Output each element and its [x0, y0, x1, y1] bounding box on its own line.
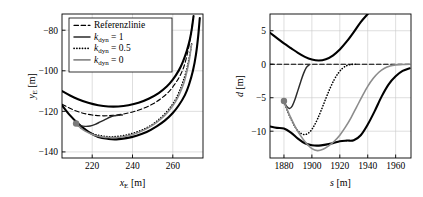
x-tick-label: 220	[85, 161, 100, 171]
x-axis-title: s [m]	[330, 177, 351, 188]
y-tick-label: 5	[261, 26, 266, 36]
y-tick-label: 0	[261, 60, 266, 70]
left-plot-svg: 220240260−80−100−120−140xE [m]yE [m]Refe…	[0, 0, 211, 197]
x-tick-label: 1940	[358, 161, 377, 171]
y-axis-title: yE [m]	[26, 73, 39, 100]
y-tick-label: −140	[38, 147, 58, 157]
y-tick-label: −5	[256, 93, 266, 103]
x-tick-label: 240	[125, 161, 140, 171]
y-tick-label: −10	[251, 127, 266, 137]
series-trajectory-kdyn-1	[284, 65, 309, 109]
x-tick-label: 1880	[274, 161, 293, 171]
legend-label: Referenzlinie	[94, 20, 145, 30]
x-axis-title: xE [m]	[119, 177, 146, 190]
x-tick-label: 260	[166, 161, 181, 171]
marker-start-position	[281, 98, 287, 104]
figure-two-panel-plot: 220240260−80−100−120−140xE [m]yE [m]Refe…	[0, 0, 423, 197]
y-axis-title: d [m]	[234, 75, 245, 97]
panel-right-sd-trajectory: 1880190019201940196050−5−10s [m]d [m]	[211, 0, 423, 197]
x-tick-label: 1900	[302, 161, 321, 171]
x-tick-label: 1920	[330, 161, 349, 171]
series-road-boundary-upper	[270, 9, 372, 60]
right-plot-svg: 1880190019201940196050−5−10s [m]d [m]	[211, 0, 423, 197]
marker-start-position	[73, 120, 79, 126]
legend: Referenzliniekdyn = 1kdyn = 0.5kdyn = 0	[69, 18, 172, 72]
y-tick-label: −80	[43, 26, 58, 36]
panel-left-xy-trajectory: 220240260−80−100−120−140xE [m]yE [m]Refe…	[0, 0, 211, 197]
series-trajectory-kdyn-1	[76, 115, 122, 126]
plot-frame	[270, 14, 411, 158]
x-tick-label: 1960	[386, 161, 405, 171]
y-tick-label: −120	[38, 107, 58, 117]
y-tick-label: −100	[38, 66, 58, 76]
